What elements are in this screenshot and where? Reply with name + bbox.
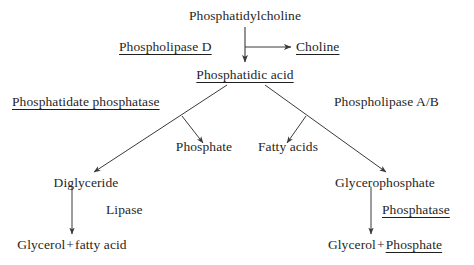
plus-sign-right: + [376, 237, 386, 252]
label-phospholipase-ab: Phospholipase A/B [334, 95, 439, 109]
node-fatty-acids: Fatty acids [258, 140, 318, 154]
node-choline: Choline [296, 40, 339, 54]
label-phosphatidate-phosphatase: Phosphatidate phosphatase [12, 95, 160, 109]
plus-sign-left: + [65, 237, 75, 252]
node-phosphate: Phosphate [176, 140, 232, 154]
node-glycerol-plus-phosphate: Glycerol+Phosphate [328, 238, 442, 252]
glycerol-left-text: Glycerol [17, 237, 65, 252]
label-phospholipase-d: Phospholipase D [119, 40, 212, 54]
glycerol-right-text: Glycerol [328, 237, 376, 252]
fatty-acid-left-text: fatty acid [75, 237, 127, 252]
pathway-arrows [0, 0, 474, 265]
phosphate-right-text: Phosphate [386, 237, 442, 252]
node-glycerol-plus-fatty-acid: Glycerol+fatty acid [17, 238, 126, 252]
node-phosphatidic-acid: Phosphatidic acid [196, 68, 293, 82]
node-diglyceride: Diglyceride [54, 176, 119, 190]
label-phosphatase: Phosphatase [382, 203, 450, 217]
pathway-diagram: Phosphatidylcholine Phospholipase D Chol… [0, 0, 474, 265]
node-phosphatidylcholine: Phosphatidylcholine [189, 9, 301, 23]
label-lipase: Lipase [106, 203, 143, 217]
node-glycerophosphate: Glycerophosphate [335, 176, 435, 190]
